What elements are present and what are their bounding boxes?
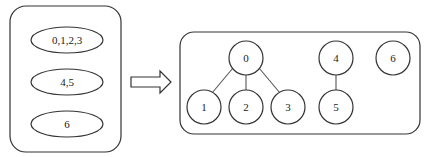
right-arrow-icon	[131, 71, 171, 93]
node-label: 2	[243, 101, 249, 113]
set-label: 6	[64, 118, 70, 130]
node-label: 0	[243, 52, 249, 64]
node-label: 6	[390, 52, 396, 64]
disjoint-set-diagram: 0,1,2,3 4,5 6 0 1 2 3 4 5 6	[0, 0, 427, 157]
set-label: 4,5	[60, 76, 74, 88]
tree-node-1: 1	[187, 90, 221, 124]
tree-node-4: 4	[319, 41, 353, 75]
set-ellipse-2: 6	[31, 111, 103, 137]
edge-0-1	[212, 68, 233, 93]
tree-node-6: 6	[376, 41, 410, 75]
set-ellipse-0: 0,1,2,3	[31, 27, 103, 53]
node-label: 3	[285, 101, 291, 113]
tree-node-0: 0	[229, 41, 263, 75]
tree-node-3: 3	[271, 90, 305, 124]
node-label: 1	[201, 101, 207, 113]
set-label: 0,1,2,3	[52, 34, 83, 46]
tree-node-5: 5	[319, 90, 353, 124]
edge-0-3	[259, 68, 280, 93]
node-label: 4	[333, 52, 339, 64]
node-label: 5	[333, 101, 339, 113]
set-ellipse-1: 4,5	[31, 69, 103, 95]
tree-node-2: 2	[229, 90, 263, 124]
